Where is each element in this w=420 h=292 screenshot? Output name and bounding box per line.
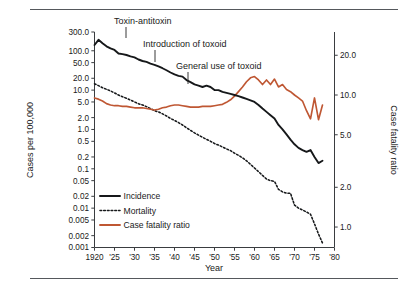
left-tick-label: 0.02 bbox=[73, 192, 89, 201]
annotation-group: Toxin-antitoxinIntroduction of toxoidGen… bbox=[114, 16, 262, 84]
bottom-tick-label: '50 bbox=[209, 253, 220, 262]
left-tick-label: 20.0 bbox=[73, 74, 89, 83]
left-axis-ticks: 300.0100.050.020.010.05.02.01.00.50.20.1… bbox=[69, 28, 95, 253]
x-axis-title: Year bbox=[205, 263, 223, 273]
right-tick-label: 1.0 bbox=[340, 223, 352, 232]
right-tick-label: 2.0 bbox=[340, 183, 352, 192]
annotation-label-introduction-of-toxoid: Introduction of toxoid bbox=[143, 39, 227, 49]
y2-axis-title: Case fatality ratio bbox=[389, 105, 399, 175]
left-tick-label: 0.01 bbox=[73, 204, 89, 213]
bottom-tick-label: '45 bbox=[189, 253, 200, 262]
right-axis-ticks: 20.010.05.02.01.0 bbox=[335, 51, 357, 232]
left-tick-label: 50.0 bbox=[73, 59, 89, 68]
annotation-label-general-use-of-toxoid: General use of toxoid bbox=[176, 61, 262, 71]
bottom-tick-label: '80 bbox=[329, 253, 340, 262]
right-tick-label: 5.0 bbox=[340, 131, 352, 140]
left-tick-label: 0.005 bbox=[69, 216, 90, 225]
bottom-axis-ticks: 1920'25'30'35'40'45'50'55'60'65'70'75'80 bbox=[85, 248, 340, 263]
legend-label-2: Case fatality ratio bbox=[124, 220, 191, 230]
left-tick-label: 100.0 bbox=[69, 47, 90, 56]
annotation-label-toxin-antitoxin: Toxin-antitoxin bbox=[114, 16, 172, 26]
bottom-tick-label: '60 bbox=[249, 253, 260, 262]
left-tick-label: 0.05 bbox=[73, 177, 89, 186]
left-tick-label: 5.0 bbox=[78, 98, 90, 107]
bottom-tick-label: '35 bbox=[149, 253, 160, 262]
bottom-tick-label: '65 bbox=[269, 253, 280, 262]
left-tick-label: 1.0 bbox=[78, 125, 90, 134]
series-incidence-line bbox=[95, 40, 323, 163]
left-tick-label: 0.2 bbox=[78, 153, 90, 162]
left-tick-label: 0.002 bbox=[69, 232, 90, 241]
bottom-tick-label: '30 bbox=[129, 253, 140, 262]
bottom-tick-label: '55 bbox=[229, 253, 240, 262]
y-axis-title: Cases per 100,000 bbox=[25, 102, 35, 178]
chart-legend: IncidenceMortalityCase fatality ratio bbox=[100, 191, 190, 230]
left-tick-label: 0.001 bbox=[69, 243, 90, 252]
left-tick-label: 10.0 bbox=[73, 86, 89, 95]
right-tick-label: 20.0 bbox=[340, 51, 356, 60]
bottom-tick-label: 1920 bbox=[85, 253, 104, 262]
diphtheria-trends-chart: 300.0100.050.020.010.05.02.01.00.50.20.1… bbox=[0, 0, 420, 292]
bottom-tick-label: '25 bbox=[109, 253, 120, 262]
left-tick-label: 0.1 bbox=[78, 165, 90, 174]
series-mortality-line bbox=[95, 84, 323, 243]
bottom-tick-label: '75 bbox=[309, 253, 320, 262]
left-tick-label: 2.0 bbox=[78, 114, 90, 123]
bottom-tick-label: '40 bbox=[169, 253, 180, 262]
legend-label-1: Mortality bbox=[124, 206, 157, 216]
left-tick-label: 300.0 bbox=[69, 28, 90, 37]
legend-label-0: Incidence bbox=[124, 191, 161, 201]
left-tick-label: 0.5 bbox=[78, 137, 90, 146]
series-case-fatality-ratio-line bbox=[95, 77, 323, 120]
right-tick-label: 10.0 bbox=[340, 91, 356, 100]
figure-container: 300.0100.050.020.010.05.02.01.00.50.20.1… bbox=[0, 0, 420, 292]
bottom-tick-label: '70 bbox=[289, 253, 300, 262]
